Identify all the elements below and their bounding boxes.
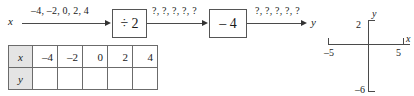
cell-x-4: 4 [133,46,158,68]
xy-value-table: x –4 –2 0 2 4 y [8,45,158,90]
y-axis-line [368,20,369,92]
cell-y-2[interactable] [83,68,108,90]
coordinate-plane: y x 2 –6 –5 5 [322,8,414,96]
cell-x-3: 2 [108,46,133,68]
y-axis-label: y [372,9,376,19]
function-machine: x –4, –2, 0, 2, 4 ÷ 2 ?, ?, ?, ?, ? – 4 … [0,0,300,44]
cell-y-0[interactable] [33,68,58,90]
cell-y-3[interactable] [108,68,133,90]
arrow-head-3-icon [301,20,307,26]
cell-x-0: –4 [33,46,58,68]
y-axis-top-tick [368,20,375,21]
x-axis-label: x [406,34,410,44]
x-tick-label-max: 5 [396,48,401,58]
x-tick-label-min: –5 [324,48,334,58]
arrow-label-2: ?, ?, ?, ?, ? [152,6,197,16]
operation-box-subtract: – 4 [209,9,247,38]
arrow-line-1 [22,23,106,24]
x-axis-right-tick [403,38,404,45]
arrow-label-3: ?, ?, ?, ?, ? [255,6,300,16]
cell-y-4[interactable] [133,68,158,90]
cell-x-2: 0 [83,46,108,68]
table-row-x: x –4 –2 0 2 4 [9,46,158,68]
y-tick-label-max: 2 [356,20,361,30]
y-tick-label-min: –6 [355,85,365,95]
worksheet-diagram: x –4, –2, 0, 2, 4 ÷ 2 ?, ?, ?, ?, ? – 4 … [0,0,414,96]
row-header-y: y [9,68,33,90]
x-axis-left-tick [328,38,329,45]
table-row-y: y [9,68,158,90]
arrow-head-1-icon [105,20,111,26]
cell-y-1[interactable] [58,68,83,90]
cell-x-1: –2 [58,46,83,68]
operation-box-divide: ÷ 2 [112,9,147,38]
x-axis-line [328,44,410,45]
arrow-head-2-icon [202,20,208,26]
output-variable-label: y [311,17,316,28]
arrow-label-1: –4, –2, 0, 2, 4 [31,6,89,16]
y-axis-bottom-tick [368,91,375,92]
input-variable-label: x [8,16,13,27]
arrow-line-3 [247,23,302,24]
row-header-x: x [9,46,33,68]
arrow-line-2 [147,23,203,24]
